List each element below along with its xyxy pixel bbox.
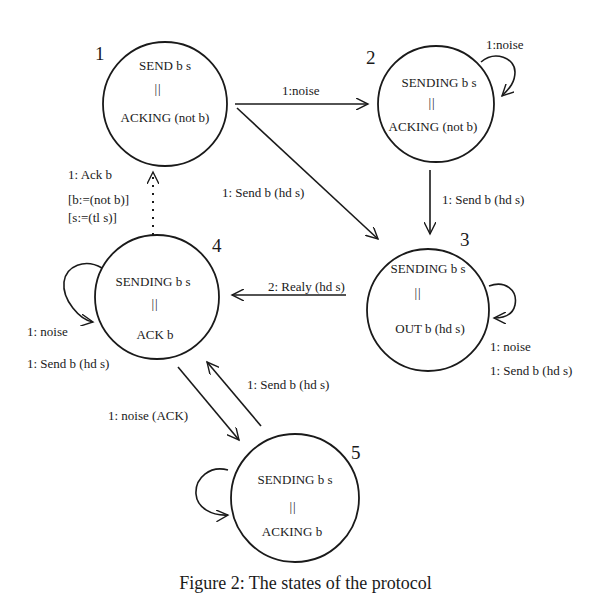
state-4-line1: SENDING b s — [115, 275, 190, 288]
edge-5-to-4 — [207, 362, 261, 426]
edge-2-to-3-label: 1: Send b (hd s) — [442, 193, 524, 206]
state-5-line1: SENDING b s — [257, 473, 332, 486]
state-2-line2: ACKING (not b) — [389, 120, 478, 133]
edge-1-to-3 — [237, 108, 378, 239]
state-1-number: 1 — [95, 44, 105, 63]
figure-caption: Figure 2: The states of the protocol — [0, 573, 611, 594]
state-1-parallel: || — [154, 82, 161, 95]
edge-5-self-loop — [196, 469, 228, 515]
edge-5-to-4-label: 1: Send b (hd s) — [247, 378, 329, 391]
state-1-line2: ACKING (not b) — [121, 111, 210, 124]
edge-2-self-label: 1:noise — [486, 38, 524, 51]
state-4-line2: ACK b — [136, 328, 173, 341]
state-3-parallel: || — [414, 286, 421, 299]
state-2-line1: SENDING b s — [401, 76, 476, 89]
edge-1-to-2-label: 1:noise — [282, 84, 320, 97]
state-3-line1: SENDING b s — [390, 262, 465, 275]
state-3-line2: OUT b (hd s) — [395, 322, 464, 335]
state-2-number: 2 — [366, 48, 376, 67]
state-4-parallel: || — [151, 297, 158, 310]
state-4-number: 4 — [212, 236, 222, 255]
state-5-line2: ACKING b — [262, 525, 322, 538]
edge-3-self-label-send: 1: Send b (hd s) — [490, 364, 572, 377]
state-2-circle — [378, 46, 494, 162]
edge-4-self-label-noise: 1: noise — [27, 325, 68, 338]
edge-4-to-5-label: 1: noise (ACK) — [108, 409, 188, 422]
state-3-number: 3 — [460, 230, 470, 249]
edge-4-self-label-send: 1: Send b (hd s) — [27, 357, 109, 370]
edge-3-to-4-label: 2: Realy (hd s) — [268, 280, 345, 293]
edge-4-to-1-label-ack: 1: Ack b — [68, 168, 112, 181]
state-2-parallel: || — [428, 96, 435, 109]
edge-4-to-1-label-b: [b:=(not b)] — [68, 193, 129, 206]
state-5-number: 5 — [351, 443, 361, 462]
state-1-line1: SEND b s — [139, 59, 191, 72]
edge-4-to-1-label-s: [s:=(tl s)] — [68, 211, 117, 224]
state-5-circle — [231, 434, 359, 562]
edge-1-to-3-label: 1: Send b (hd s) — [222, 186, 304, 199]
edge-3-self-loop — [489, 284, 515, 318]
state-5-parallel: || — [289, 500, 296, 513]
edge-4-to-5 — [178, 367, 239, 440]
edge-3-self-label-noise: 1: noise — [490, 340, 531, 353]
